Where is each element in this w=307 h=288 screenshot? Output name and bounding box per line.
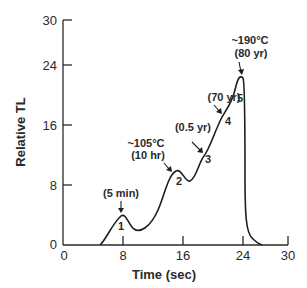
y-tick-labels: 30 24 16 8 0 [43,13,57,252]
y-tick-24: 24 [43,58,57,73]
annotation-peak-2-time: (10 hr) [131,149,165,161]
annotations: (5 min) ~105°C (10 hr) (0.5 yr) (70 yr) … [103,34,269,199]
arrow-icon-peak-2 [164,163,172,172]
annotation-peak-2-temp: ~105°C [127,137,164,149]
x-tick-24: 24 [236,248,250,263]
x-tick-30: 30 [281,248,295,263]
x-tick-16: 16 [176,248,190,263]
tl-glow-curve-chart: 30 24 16 8 0 0 8 16 24 30 Time (sec) Rel… [0,0,307,288]
y-tick-8: 8 [50,178,57,193]
annotation-peak-1: (5 min) [103,187,139,199]
annotation-peak-5-temp: ~190°C [231,34,268,46]
y-axis-title: Relative TL [13,97,28,166]
arrow-icon-peak-3 [192,142,203,153]
y-tick-30: 30 [43,13,57,28]
arrow-icon-peak-5 [238,62,244,75]
y-tick-16: 16 [43,118,57,133]
x-tick-0: 0 [60,248,67,263]
annotation-peak-3: (0.5 yr) [175,121,211,133]
annotation-peak-4: (70 yr) [207,91,240,103]
arrow-icon-peak-1 [118,201,124,213]
peak-label-3: 3 [205,153,211,165]
x-tick-8: 8 [119,248,126,263]
x-tick-labels: 0 8 16 24 30 [60,248,295,263]
peak-label-2: 2 [176,175,182,187]
peak-label-1: 1 [118,220,124,232]
arrow-icon-peak-4 [214,105,222,114]
peak-label-4: 4 [225,115,232,127]
x-axis-title: Time (sec) [132,267,196,282]
annotation-peak-5-time: (80 yr) [234,47,267,59]
y-tick-0: 0 [50,237,57,252]
